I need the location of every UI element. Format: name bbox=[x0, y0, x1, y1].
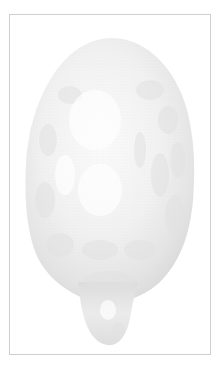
specimen-illustration bbox=[0, 0, 222, 369]
